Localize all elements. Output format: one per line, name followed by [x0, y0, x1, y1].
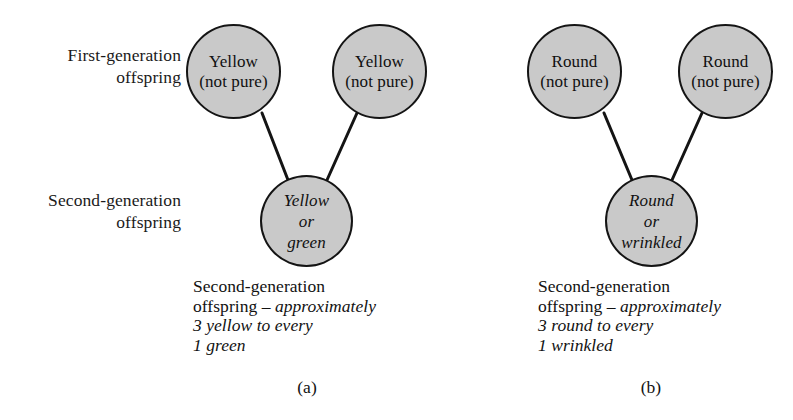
first-generation-row-label: First-generation offspring	[0, 44, 181, 88]
node-a-parent-left[interactable]: Yellow (not pure)	[186, 24, 281, 119]
caption-a-line1: Second-generation	[193, 277, 423, 297]
caption-a-line4: 1 green	[193, 336, 423, 356]
caption-a-line2: offspring – approximately	[193, 297, 423, 317]
caption-b-line4: 1 wrinkled	[538, 336, 773, 356]
caption-a-line2-italic: approximately	[275, 296, 376, 316]
caption-b-line2-italic: approximately	[620, 296, 721, 316]
panel-letter-b: (b)	[606, 377, 696, 398]
panel-letter-a: (a)	[262, 377, 352, 398]
second-generation-row-label: Second-generation offspring	[0, 189, 181, 233]
caption-b: Second-generation offspring – approximat…	[538, 277, 773, 355]
connector-b-right	[672, 113, 702, 180]
node-a-parent-left-label: Yellow (not pure)	[199, 52, 268, 92]
node-b-offspring-label: Round or wrinkled	[621, 190, 681, 253]
node-a-offspring[interactable]: Yellow or green	[260, 175, 353, 267]
node-a-parent-right-label: Yellow (not pure)	[345, 52, 414, 92]
connector-b-left	[604, 113, 632, 180]
caption-b-line3: 3 round to every	[538, 316, 773, 336]
connector-a-left	[262, 113, 288, 180]
node-b-parent-right[interactable]: Round (not pure)	[678, 24, 773, 119]
caption-a-line3: 3 yellow to every	[193, 316, 423, 336]
caption-a: Second-generation offspring – approximat…	[193, 277, 423, 355]
node-b-offspring[interactable]: Round or wrinkled	[605, 175, 698, 267]
node-b-parent-left-label: Round (not pure)	[540, 52, 609, 92]
node-b-parent-left[interactable]: Round (not pure)	[527, 24, 622, 119]
caption-b-line2: offspring – approximately	[538, 297, 773, 317]
caption-b-line1: Second-generation	[538, 277, 773, 297]
connector-a-right	[327, 113, 357, 180]
caption-b-line2-roman: offspring –	[538, 296, 620, 316]
node-b-parent-right-label: Round (not pure)	[691, 52, 760, 92]
figure-canvas: First-generation offspring Second-genera…	[0, 0, 793, 420]
caption-a-line2-roman: offspring –	[193, 296, 275, 316]
node-a-offspring-label: Yellow or green	[284, 190, 329, 253]
node-a-parent-right[interactable]: Yellow (not pure)	[332, 24, 427, 119]
